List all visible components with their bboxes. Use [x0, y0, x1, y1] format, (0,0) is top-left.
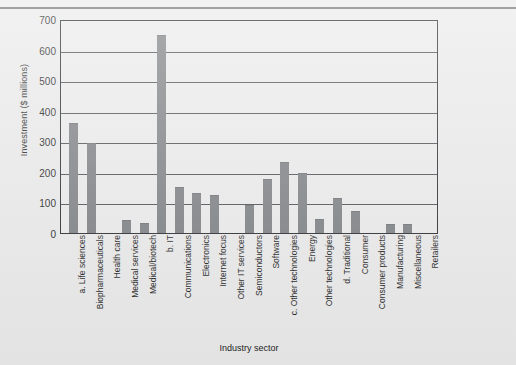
- x-tick-slot: Medical services: [117, 235, 135, 345]
- bar-slot: [65, 21, 83, 233]
- bar: [333, 198, 342, 233]
- bar-slot: [364, 21, 382, 233]
- bar-slot: [83, 21, 101, 233]
- bar: [315, 219, 324, 233]
- bar: [69, 123, 78, 233]
- x-axis-title: Industry sector: [60, 343, 438, 353]
- x-tick-slot: c. Other technologies: [276, 235, 294, 345]
- x-tick-slot: Consumer products: [364, 235, 382, 345]
- bar-slot: [241, 21, 259, 233]
- bar: [403, 224, 412, 233]
- bar-slot: [258, 21, 276, 233]
- x-tick-slot: Other technologies: [311, 235, 329, 345]
- x-tick-slot: Communications: [170, 235, 188, 345]
- y-tick-label: 400: [22, 106, 56, 117]
- bar: [122, 220, 131, 233]
- bar-slot: [276, 21, 294, 233]
- bar: [351, 211, 360, 233]
- bar: [192, 193, 201, 233]
- bar-slot: [311, 21, 329, 233]
- bar: [157, 35, 166, 233]
- bar-slot: [188, 21, 206, 233]
- y-tick-label: 0: [22, 229, 56, 240]
- bar-slot: [170, 21, 188, 233]
- bar: [298, 173, 307, 233]
- bar-slot: [346, 21, 364, 233]
- bar-chart-figure: Investment ($ millions) 0100200300400500…: [0, 9, 516, 365]
- x-tick-slot: Miscellaneous: [400, 235, 418, 345]
- bar: [140, 223, 149, 233]
- bar: [263, 179, 272, 233]
- y-axis-ticks: 0100200300400500600700: [18, 20, 56, 234]
- bar-slot: [223, 21, 241, 233]
- x-tick-slot: b. IT: [152, 235, 170, 345]
- bar-slot: [329, 21, 347, 233]
- bar: [280, 162, 289, 233]
- x-tick-label: Retailers: [430, 235, 440, 269]
- bar: [386, 224, 395, 233]
- bar-slot: [118, 21, 136, 233]
- x-tick-slot: Biopharmaceuticals: [82, 235, 100, 345]
- x-tick-slot: Medical/biotech: [135, 235, 153, 345]
- bar: [87, 143, 96, 233]
- y-tick-label: 200: [22, 167, 56, 178]
- bar-slot: [399, 21, 417, 233]
- bar-series: [61, 21, 437, 233]
- bar-slot: [153, 21, 171, 233]
- x-tick-slot: Health care: [99, 235, 117, 345]
- x-tick-slot: Consumer: [347, 235, 365, 345]
- x-tick-slot: Semiconductors: [241, 235, 259, 345]
- x-tick-slot: Energy: [294, 235, 312, 345]
- bar-slot: [206, 21, 224, 233]
- y-tick-label: 500: [22, 76, 56, 87]
- bar-slot: [135, 21, 153, 233]
- y-tick-label: 600: [22, 45, 56, 56]
- x-tick-slot: Internet focus: [205, 235, 223, 345]
- bar-slot: [417, 21, 435, 233]
- x-tick-slot: Electronics: [188, 235, 206, 345]
- y-tick-label: 700: [22, 15, 56, 26]
- bar-slot: [381, 21, 399, 233]
- bar-slot: [100, 21, 118, 233]
- figure-page: Investment ($ millions) 0100200300400500…: [0, 0, 516, 365]
- x-tick-slot: a. Life sciences: [64, 235, 82, 345]
- x-tick-slot: Software: [258, 235, 276, 345]
- bar: [245, 205, 254, 233]
- x-tick-slot: Other IT services: [223, 235, 241, 345]
- x-tick-slot: Manufacturing: [382, 235, 400, 345]
- x-tick-slot: Retailers: [417, 235, 435, 345]
- x-axis-ticks: a. Life sciencesBiopharmaceuticalsHealth…: [60, 235, 438, 345]
- bar: [175, 187, 184, 233]
- y-tick-label: 100: [22, 198, 56, 209]
- x-tick-slot: d. Traditional: [329, 235, 347, 345]
- bar-slot: [294, 21, 312, 233]
- bar: [210, 195, 219, 233]
- plot-area: [60, 20, 438, 234]
- y-tick-label: 300: [22, 137, 56, 148]
